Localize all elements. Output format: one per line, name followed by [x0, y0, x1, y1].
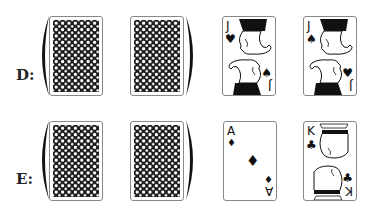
rank-bottom-right: J — [349, 80, 353, 92]
rank-bottom-right: J — [268, 80, 272, 92]
rank-top-left: A — [227, 125, 235, 137]
heart-icon: ♥ — [225, 33, 236, 45]
diamond-center-icon: ♦ — [246, 154, 259, 169]
row-label-e: E: — [16, 170, 33, 188]
rank-bottom-right: K — [345, 185, 353, 197]
rank-top-left: J — [226, 20, 230, 32]
card-back[interactable] — [49, 121, 103, 201]
heart-icon: ♥ — [342, 67, 353, 79]
card-back[interactable] — [49, 16, 103, 96]
spade-icon: ♠ — [261, 67, 272, 79]
card-king-clubs[interactable]: K ♣ ♣ K — [303, 121, 357, 201]
rank-top-left: J — [307, 20, 311, 32]
row-label-d: D: — [16, 66, 35, 84]
card-jack-spades-hearts[interactable]: J ♠ ♥ J — [303, 16, 357, 96]
card-ace-diamonds[interactable]: A ♦ ♦ ♦ A — [223, 121, 277, 201]
card-back-pattern — [53, 20, 99, 92]
row-d: D: J ♥ ♠ J — [0, 0, 371, 104]
card-back-pattern — [53, 125, 99, 197]
card-back-pattern — [134, 20, 180, 92]
card-jack-hearts-spades[interactable]: J ♥ ♠ J — [222, 16, 276, 96]
club-icon: ♣ — [342, 172, 353, 184]
diamond-icon: ♦ — [227, 137, 236, 149]
spade-icon: ♠ — [306, 33, 317, 45]
row-e: E: A ♦ ♦ ♦ A K ♣ ♣ K — [0, 104, 371, 208]
card-back[interactable] — [130, 121, 184, 201]
right-bracket-icon — [184, 0, 198, 104]
rank-bottom-right: A — [265, 185, 273, 197]
card-back-pattern — [134, 125, 180, 197]
rank-top-left: K — [307, 125, 315, 137]
club-icon: ♣ — [306, 139, 317, 151]
card-back[interactable] — [130, 16, 184, 96]
right-bracket-icon — [184, 104, 198, 208]
